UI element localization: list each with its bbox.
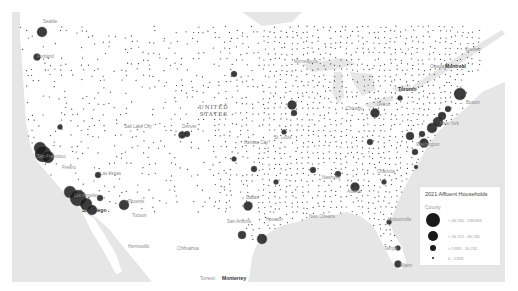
- county-bubble[interactable]: [184, 131, 190, 137]
- place-label: Detroit: [377, 102, 390, 107]
- county-bubble[interactable]: [438, 112, 446, 120]
- place-label: Denver: [182, 124, 197, 129]
- place-label: St. Louis: [274, 135, 292, 140]
- place-label: Seattle: [43, 19, 57, 24]
- place-label: Atlanta: [347, 189, 361, 194]
- county-bubble[interactable]: [445, 106, 451, 112]
- county-bubble[interactable]: [371, 109, 380, 118]
- large-circle-icon: [426, 213, 440, 227]
- legend-title: 2021 Affluent Households: [425, 191, 488, 197]
- place-label: Tucson: [132, 213, 147, 218]
- county-bubble[interactable]: [232, 157, 237, 162]
- place-label: New York: [440, 121, 459, 126]
- place-label: San Francisco: [37, 154, 66, 159]
- county-bubble[interactable]: [288, 101, 297, 110]
- legend-class-1: > 46,746 - 138,663: [420, 213, 500, 227]
- county-bubble[interactable]: [238, 231, 246, 239]
- place-label: Dallas: [246, 195, 259, 200]
- place-label: Salt Lake City: [124, 124, 152, 129]
- county-bubble[interactable]: [454, 88, 466, 100]
- place-label: Phoenix: [128, 199, 144, 204]
- county-bubble[interactable]: [406, 132, 414, 140]
- county-bubble[interactable]: [58, 125, 63, 130]
- county-bubble[interactable]: [282, 130, 287, 135]
- county-bubble[interactable]: [367, 139, 373, 145]
- place-label: Tampa: [384, 246, 398, 251]
- place-label: Miami: [400, 263, 412, 268]
- place-label: Fresno: [62, 165, 76, 170]
- place-label: Chicago: [346, 106, 363, 111]
- place-label: Boston: [466, 100, 480, 105]
- place-label: Washington: [416, 142, 440, 147]
- place-label: San Diego: [82, 207, 106, 213]
- county-bubble[interactable]: [412, 149, 418, 155]
- place-label: Jacksonville: [387, 217, 411, 222]
- place-label: Las Vegas: [100, 171, 121, 176]
- place-label: Chihuahua: [177, 246, 199, 251]
- county-bubble[interactable]: [382, 180, 387, 185]
- place-label: Charlotte: [377, 169, 395, 174]
- county-bubble[interactable]: [310, 167, 316, 173]
- county-bubble[interactable]: [231, 71, 237, 77]
- place-label: Nashville: [322, 175, 340, 180]
- county-bubble[interactable]: [419, 131, 425, 137]
- county-bubble[interactable]: [37, 27, 47, 37]
- small-circle-icon: [430, 245, 436, 251]
- county-bubble[interactable]: [398, 96, 403, 101]
- place-label: New Orleans: [309, 214, 335, 219]
- legend-class-4: 0 - 2,835: [420, 256, 500, 270]
- county-bubble[interactable]: [257, 234, 267, 244]
- place-label: Kansas City: [244, 140, 268, 145]
- place-label: San Antonio: [227, 219, 251, 224]
- county-bubble[interactable]: [251, 166, 257, 172]
- county-bubble[interactable]: [274, 180, 279, 185]
- place-label: Portland: [37, 54, 54, 59]
- place-label: Los Angeles: [74, 193, 99, 198]
- county-bubble[interactable]: [244, 202, 253, 211]
- legend-class-2: > 16,702 - 46,746: [420, 231, 500, 245]
- place-label: Quebec: [465, 47, 481, 52]
- legend-subtitle: County: [425, 204, 441, 210]
- place-label: Houston: [266, 217, 283, 222]
- place-label: Toronto: [398, 86, 417, 92]
- medium-circle-icon: [428, 231, 438, 241]
- dot-icon: [432, 257, 434, 259]
- place-label: Montreal: [445, 63, 466, 69]
- legend-panel: 2021 Affluent Households County > 46,746…: [419, 186, 501, 266]
- place-label: Minneapolis: [294, 59, 318, 64]
- county-bubble[interactable]: [414, 165, 418, 169]
- place-label: Hermosillo: [128, 244, 149, 249]
- place-label: Torreon: [200, 276, 215, 281]
- country-label: UNITED STATES: [199, 104, 229, 118]
- county-bubble[interactable]: [291, 110, 297, 116]
- place-label: Ottawa: [430, 64, 444, 69]
- place-label: Monterrey: [222, 275, 246, 281]
